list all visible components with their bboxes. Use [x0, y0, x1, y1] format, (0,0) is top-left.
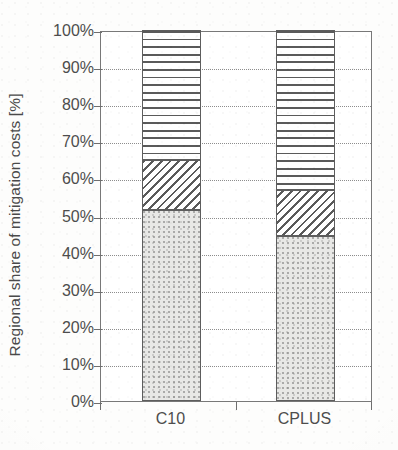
- plot-area: [100, 31, 372, 402]
- bar-segment-cplus-diagonal-hatch[interactable]: [276, 190, 335, 236]
- x-axis-tick-1: [236, 402, 237, 410]
- bar-segment-c10-horizontal-lines[interactable]: [142, 30, 201, 160]
- bar-c10[interactable]: [142, 30, 201, 401]
- y-tick-20: [94, 329, 102, 330]
- y-tick-80: [94, 106, 102, 107]
- bar-segment-cplus-horizontal-lines[interactable]: [276, 30, 335, 190]
- bar-segment-c10-stipple[interactable]: [142, 210, 201, 401]
- x-tick-label-cplus: CPLUS: [245, 410, 365, 428]
- y-tick-label-30: 30%: [24, 282, 94, 300]
- y-tick-90: [94, 69, 102, 70]
- y-tick-label-40: 40%: [24, 245, 94, 263]
- y-tick-label-100: 100%: [24, 22, 94, 40]
- y-tick-label-80: 80%: [24, 96, 94, 114]
- x-axis-tick-2: [371, 402, 372, 410]
- plot-inner: [101, 32, 371, 401]
- x-tick-label-c10: C10: [111, 410, 231, 428]
- y-tick-70: [94, 143, 102, 144]
- y-tick-label-10: 10%: [24, 356, 94, 374]
- bar-segment-c10-diagonal-hatch[interactable]: [142, 160, 201, 210]
- y-tick-50: [94, 218, 102, 219]
- y-tick-100: [94, 32, 102, 33]
- y-tick-30: [94, 292, 102, 293]
- y-tick-label-0: 0%: [24, 393, 94, 411]
- y-tick-60: [94, 180, 102, 181]
- y-tick-10: [94, 366, 102, 367]
- y-tick-label-50: 50%: [24, 208, 94, 226]
- x-axis-tick-0: [100, 402, 101, 410]
- chart-figure: Regional share of mitigation costs [%] 1…: [0, 0, 398, 450]
- y-tick-label-20: 20%: [24, 319, 94, 337]
- y-tick-40: [94, 255, 102, 256]
- y-tick-label-60: 60%: [24, 170, 94, 188]
- y-tick-label-90: 90%: [24, 59, 94, 77]
- bar-segment-cplus-stipple[interactable]: [276, 236, 335, 401]
- bar-cplus[interactable]: [276, 30, 335, 401]
- y-tick-label-70: 70%: [24, 133, 94, 151]
